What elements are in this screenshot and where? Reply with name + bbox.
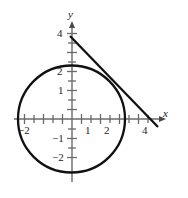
y-tick-label-neg2: −2: [52, 152, 64, 163]
y-tick-label-neg1: −1: [52, 133, 64, 144]
x-tick-label-1: 1: [85, 125, 91, 136]
x-tick-label-2: 2: [104, 125, 110, 136]
y-tick-label-4: 4: [57, 28, 63, 39]
x-tick-label-4: 4: [142, 125, 148, 136]
y-axis-label: y: [68, 9, 73, 20]
y-tick-label-2: 2: [57, 66, 63, 77]
graph-figure: x y 4 2 1 −1 −2 −2 1 2 4: [0, 0, 188, 198]
tangent-line: [70, 36, 158, 127]
x-axis-label: x: [163, 108, 168, 119]
y-tick-label-1: 1: [58, 85, 64, 96]
coordinate-plot: [0, 0, 188, 198]
x-tick-label-neg2: −2: [18, 125, 30, 136]
